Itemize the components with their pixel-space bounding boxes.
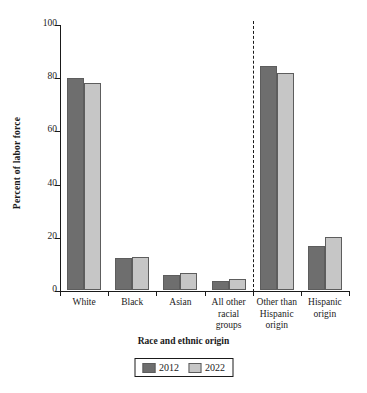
x-axis-title: Race and ethnic origin — [0, 336, 367, 346]
y-tick-label: 20 — [48, 231, 58, 241]
bar-2022-black — [132, 257, 149, 290]
x-tick-mark — [301, 291, 302, 296]
legend-label-2022: 2022 — [205, 362, 225, 373]
y-tick-label: 60 — [48, 124, 58, 134]
x-tick-mark — [108, 291, 109, 296]
y-tick-label: 80 — [48, 71, 58, 81]
bar-2012-black — [115, 258, 132, 290]
bar-2012-white — [67, 78, 84, 290]
legend-label-2012: 2012 — [159, 362, 179, 373]
bar-chart-figure: Percent of labor force 020406080100 Whit… — [0, 0, 367, 393]
bar-2022-other-than-hispanic-origin — [277, 73, 294, 290]
x-category-label-line: origin — [292, 309, 358, 321]
x-category-label: Hispanicorigin — [292, 297, 358, 320]
y-axis-title: Percent of labor force — [12, 83, 22, 243]
race-ethnicity-divider-line — [253, 21, 254, 292]
y-axis-line — [60, 25, 61, 292]
bar-2022-white — [84, 83, 101, 290]
bar-2022-all-other-racial-groups — [229, 279, 246, 290]
plot-area: 020406080100 WhiteBlackAsianAll otherrac… — [60, 25, 349, 291]
bar-group — [212, 24, 246, 290]
bar-2012-other-than-hispanic-origin — [260, 66, 277, 290]
bar-group — [308, 24, 342, 290]
x-category-label-line: origin — [244, 320, 310, 332]
y-tick-label: 0 — [52, 284, 57, 294]
legend-item-2022: 2022 — [188, 362, 225, 373]
chart-legend: 20122022 — [134, 358, 233, 377]
bar-group — [163, 24, 197, 290]
y-tick-label: 40 — [48, 178, 58, 188]
bar-2012-all-other-racial-groups — [212, 281, 229, 290]
bar-2022-hispanic-origin — [325, 237, 342, 290]
x-category-label-line: Hispanic — [292, 297, 358, 309]
bar-group — [260, 24, 294, 290]
x-tick-mark — [60, 291, 61, 296]
x-tick-mark — [205, 291, 206, 296]
bar-group — [67, 24, 101, 290]
legend-item-2012: 2012 — [142, 362, 179, 373]
bar-2022-asian — [180, 273, 197, 290]
x-tick-mark — [156, 291, 157, 296]
x-tick-mark — [349, 291, 350, 296]
bar-group — [115, 24, 149, 290]
y-tick-label: 100 — [43, 18, 57, 28]
bar-2012-hispanic-origin — [308, 246, 325, 290]
bar-2012-asian — [163, 275, 180, 290]
legend-swatch-2012 — [142, 363, 155, 373]
legend-swatch-2022 — [188, 363, 201, 373]
